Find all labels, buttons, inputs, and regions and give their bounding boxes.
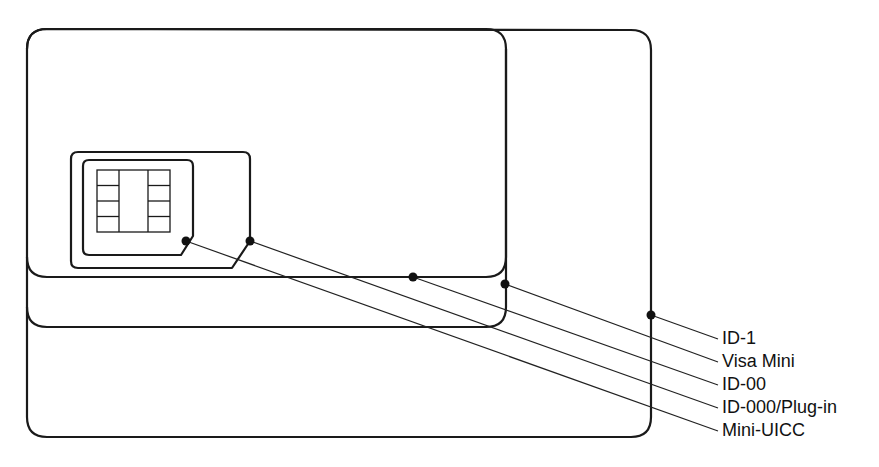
- anchor-dot-visa-mini: [501, 280, 510, 289]
- anchor-dot-id-1: [647, 311, 656, 320]
- id-1-outline: [27, 29, 651, 437]
- label-id-1: ID-1: [722, 328, 756, 348]
- label-id-000: ID-000/Plug-in: [722, 397, 837, 417]
- label-id-00: ID-00: [722, 374, 766, 394]
- leader-visa-mini: [505, 284, 718, 362]
- anchor-dot-mini-uicc: [182, 237, 191, 246]
- leader-id-1: [651, 315, 718, 339]
- anchor-dot-id-000: [246, 237, 255, 246]
- anchor-dot-id-00: [409, 273, 418, 282]
- leader-mini-uicc: [186, 241, 718, 431]
- chip-contacts-icon: [97, 170, 170, 232]
- visa-mini-outline: [27, 29, 506, 327]
- leader-id-000: [250, 241, 718, 408]
- label-visa-mini: Visa Mini: [722, 351, 795, 371]
- mini-uicc-outline: [83, 160, 193, 255]
- id-00-outline: [27, 49, 506, 277]
- label-mini-uicc: Mini-UICC: [722, 420, 805, 440]
- leader-id-00: [413, 277, 718, 385]
